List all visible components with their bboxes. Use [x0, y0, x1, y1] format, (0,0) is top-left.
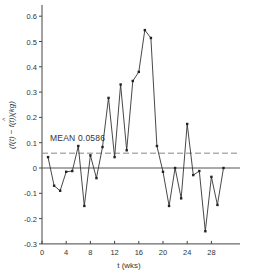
x-tick-label: 24 [183, 248, 191, 257]
y-tick-label: 0.5 [27, 38, 37, 47]
data-point [126, 149, 128, 151]
data-point [47, 156, 49, 158]
data-point [168, 205, 170, 207]
residual-chart: -0.3-0.2-0.100.10.20.30.40.50.6048121620… [0, 0, 254, 277]
data-point [180, 197, 182, 199]
data-point [198, 170, 200, 172]
x-tick-label: 0 [40, 248, 44, 257]
data-point [77, 145, 79, 147]
data-point [216, 204, 218, 206]
data-point [156, 145, 158, 147]
data-point [65, 171, 67, 173]
data-point [138, 71, 140, 73]
data-point [210, 176, 212, 178]
data-point [89, 154, 91, 156]
data-point [150, 37, 152, 39]
data-point [192, 174, 194, 176]
data-point [174, 167, 176, 169]
x-axis-label: t (wks) [117, 261, 141, 270]
x-tick-label: 4 [64, 248, 68, 257]
data-point [95, 177, 97, 179]
data-point [204, 230, 206, 232]
y-tick-label: -0.1 [24, 189, 37, 198]
data-point [119, 83, 121, 85]
x-tick-label: 12 [110, 248, 118, 257]
data-point [107, 97, 109, 99]
data-point [144, 29, 146, 31]
data-point [113, 156, 115, 158]
data-point [71, 170, 73, 172]
reference-lines [42, 153, 240, 168]
y-tick-label: 0.3 [27, 88, 37, 97]
x-tick-label: 28 [207, 248, 215, 257]
data-series [47, 29, 225, 233]
data-point [186, 123, 188, 125]
axes: -0.3-0.2-0.100.10.20.30.40.50.6048121620… [24, 5, 240, 257]
y-tick-label: 0 [33, 164, 37, 173]
x-tick-label: 8 [88, 248, 92, 257]
x-tick-label: 20 [159, 248, 167, 257]
data-point [83, 205, 85, 207]
x-tick-label: 16 [135, 248, 143, 257]
y-tick-label: -0.3 [24, 240, 37, 249]
data-point [53, 185, 55, 187]
y-tick-label: 0.4 [27, 63, 37, 72]
mean-annotation: MEAN 0.0586 [50, 133, 105, 143]
y-tick-label: 0.6 [27, 12, 37, 21]
data-point [101, 146, 103, 148]
y-tick-label: -0.2 [24, 215, 37, 224]
y-tick-label: 0.1 [27, 139, 37, 148]
data-point [132, 80, 134, 82]
data-point [162, 171, 164, 173]
y-axis-label: (f(t) − f(t))(kg) ^ [1, 101, 16, 149]
svg-text:(f(t) − f(t))(kg): (f(t) − f(t))(kg) [7, 101, 16, 149]
data-point [59, 190, 61, 192]
y-tick-label: 0.2 [27, 113, 37, 122]
series-line [48, 30, 224, 231]
data-point [222, 167, 224, 169]
